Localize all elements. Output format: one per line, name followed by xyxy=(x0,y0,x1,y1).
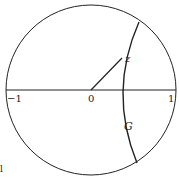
geodesic-arc-g xyxy=(123,22,139,163)
label-zero: 0 xyxy=(88,93,94,104)
label-g: G xyxy=(124,120,133,133)
corner-mark: l xyxy=(0,164,3,174)
label-one: 1 xyxy=(168,93,174,104)
radius-segment-to-z xyxy=(91,58,122,90)
label-minus-one: −1 xyxy=(7,93,22,104)
unit-disk-diagram: −1 0 1 z G l xyxy=(0,0,179,179)
label-z: z xyxy=(124,53,131,64)
